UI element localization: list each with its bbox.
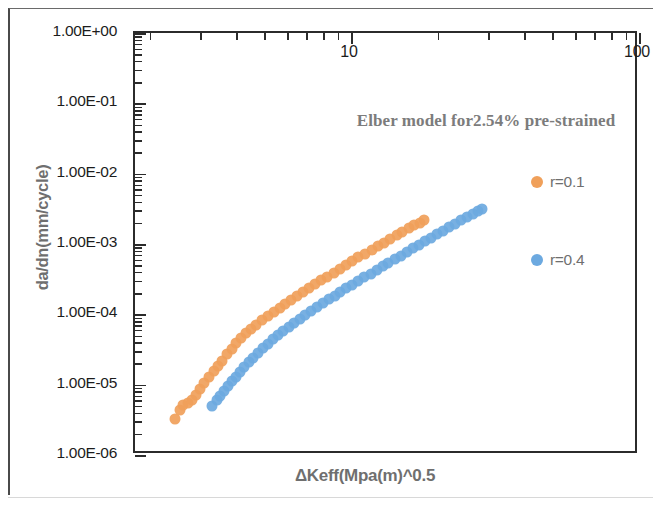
y-axis-minor-tick <box>135 265 142 267</box>
y-axis-minor-tick <box>135 351 142 353</box>
y-axis-tick-label: 1.00E-02 <box>0 163 117 181</box>
y-axis-minor-tick <box>135 36 142 38</box>
x-axis-minor-tick <box>552 33 554 40</box>
x-axis-tick-label: 100 <box>624 43 650 61</box>
y-axis-major-tick <box>135 314 146 316</box>
x-axis-minor-tick <box>287 33 289 40</box>
x-axis-minor-tick <box>575 33 577 40</box>
y-axis-tick-label: 1.00E-03 <box>0 233 117 251</box>
y-axis-minor-tick <box>135 195 142 197</box>
x-axis-minor-tick <box>236 33 238 40</box>
y-axis-minor-tick <box>135 255 142 257</box>
y-axis-major-tick <box>135 174 146 176</box>
y-axis-minor-tick <box>135 40 142 42</box>
y-axis-minor-tick <box>135 406 142 408</box>
x-axis-minor-tick <box>438 33 440 40</box>
fatigue-crack-growth-chart: 1.00E+001.00E-011.00E-021.00E-031.00E-04… <box>0 0 661 506</box>
y-axis-minor-tick <box>135 363 142 365</box>
legend-label: r=0.4 <box>550 251 584 269</box>
x-axis-tick-labels: 10100 <box>133 31 637 32</box>
y-axis-major-tick <box>135 103 146 105</box>
legend-marker-icon <box>531 176 543 188</box>
x-axis-tick-label: 10 <box>340 43 357 61</box>
y-axis-minor-tick <box>135 325 142 327</box>
legend-item[interactable]: r=0.4 <box>531 251 584 269</box>
y-axis-minor-tick <box>135 131 142 133</box>
y-axis-minor-tick <box>135 272 142 274</box>
y-axis-minor-tick <box>135 54 142 56</box>
y-axis-minor-tick <box>135 125 142 127</box>
data-point <box>476 203 487 214</box>
y-axis-minor-tick <box>135 396 142 398</box>
x-axis-minor-tick <box>626 33 628 40</box>
y-axis-minor-tick <box>135 434 142 436</box>
y-axis-minor-tick <box>135 177 142 179</box>
y-axis-minor-tick <box>135 321 142 323</box>
y-axis-tick-labels: 1.00E+001.00E-011.00E-021.00E-031.00E-04… <box>0 31 125 453</box>
x-axis-minor-tick <box>264 33 266 40</box>
y-axis-minor-tick <box>135 247 142 249</box>
y-axis-minor-tick <box>135 180 142 182</box>
y-axis-tick-label: 1.00E-01 <box>0 92 117 110</box>
x-axis-minor-tick <box>323 33 325 40</box>
y-axis-minor-tick <box>135 185 142 187</box>
y-axis-minor-tick <box>135 110 142 112</box>
x-axis-title: ΔKeff(Mpa(m)^0.5 <box>200 466 530 486</box>
y-axis-minor-tick <box>135 421 142 423</box>
y-axis-minor-tick <box>135 223 142 225</box>
y-axis-minor-tick <box>135 107 142 109</box>
y-axis-minor-tick <box>135 336 142 338</box>
y-axis-tick-label: 1.00E-04 <box>0 303 117 321</box>
legend-label: r=0.1 <box>550 173 584 191</box>
y-axis-minor-tick <box>135 413 142 415</box>
y-axis-minor-tick <box>135 189 142 191</box>
y-axis-minor-tick <box>135 342 142 344</box>
y-axis-minor-tick <box>135 70 142 72</box>
x-axis-minor-tick <box>488 33 490 40</box>
y-axis-minor-tick <box>135 44 142 46</box>
y-axis-minor-tick <box>135 293 142 295</box>
y-axis-minor-tick <box>135 251 142 253</box>
y-axis-title: da/dn(mm/cycle) <box>33 138 52 318</box>
x-axis-minor-tick <box>338 33 340 40</box>
y-axis-major-tick <box>135 33 146 35</box>
y-axis-minor-tick <box>135 281 142 283</box>
y-axis-major-tick <box>135 244 146 246</box>
y-axis-minor-tick <box>135 388 142 390</box>
data-point <box>418 215 429 226</box>
y-axis-tick-label: 1.00E+00 <box>0 22 117 40</box>
y-axis-minor-tick <box>135 49 142 51</box>
x-axis-minor-tick <box>524 33 526 40</box>
legend-marker-icon <box>531 254 543 266</box>
y-axis-minor-tick <box>135 202 142 204</box>
chart-title: Elber model for2.54% pre-strained <box>321 111 651 131</box>
y-axis-minor-tick <box>135 140 142 142</box>
y-axis-minor-tick <box>135 260 142 262</box>
y-axis-major-tick <box>135 385 146 387</box>
y-axis-minor-tick <box>135 210 142 212</box>
y-axis-minor-tick <box>135 400 142 402</box>
y-axis-minor-tick <box>135 330 142 332</box>
x-axis-minor-tick <box>306 33 308 40</box>
legend-item[interactable]: r=0.1 <box>531 173 584 191</box>
x-axis-minor-tick <box>150 33 152 40</box>
x-axis-minor-tick <box>594 33 596 40</box>
y-axis-tick-label: 1.00E-05 <box>0 374 117 392</box>
plot-area: Elber model for2.54% pre-strained r=0.1r… <box>133 31 637 453</box>
y-axis-minor-tick <box>135 82 142 84</box>
y-axis-minor-tick <box>135 119 142 121</box>
x-axis-minor-tick <box>200 33 202 40</box>
y-axis-minor-tick <box>135 152 142 154</box>
y-axis-major-tick <box>135 455 146 457</box>
y-axis-minor-tick <box>135 114 142 116</box>
y-axis-minor-tick <box>135 61 142 63</box>
y-axis-minor-tick <box>135 318 142 320</box>
y-axis-tick-label: 1.00E-06 <box>0 444 117 462</box>
x-axis-minor-tick <box>611 33 613 40</box>
y-axis-minor-tick <box>135 391 142 393</box>
